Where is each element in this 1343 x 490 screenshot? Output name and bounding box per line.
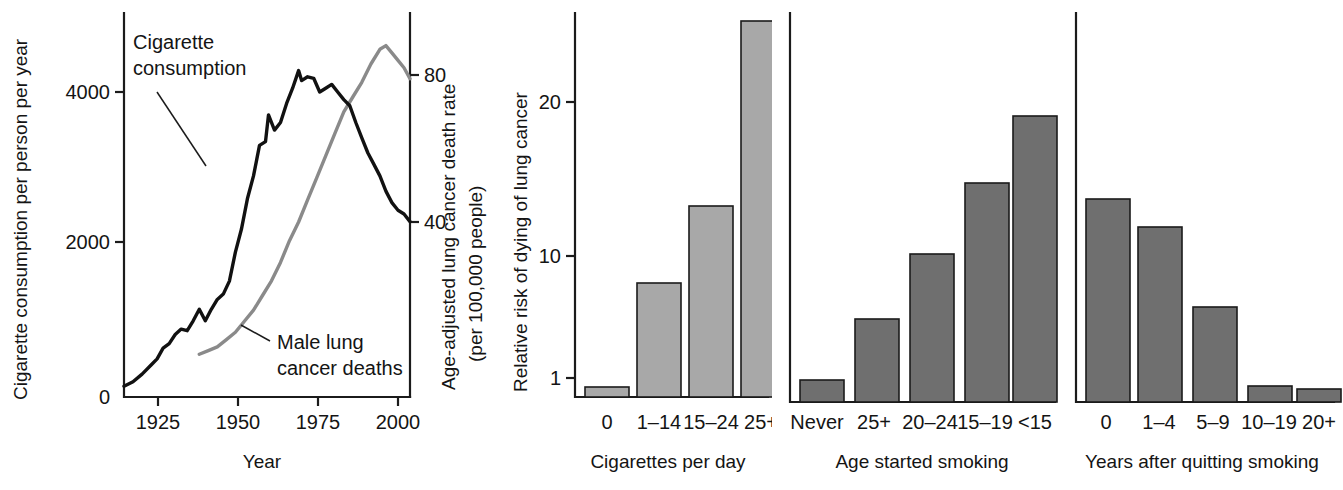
bars-y-axis-title: Relative risk of dying of lung cancer (510, 91, 531, 392)
annotation-male-lung-cancer-line1: Male lung (277, 331, 364, 353)
bar-cigarettes-0 (585, 387, 629, 397)
timeline-right-axis-title-line1: Age-adjusted lung cancer death rate (438, 84, 459, 390)
age-xticklabel-never: Never (790, 411, 844, 433)
panel-years-after-quitting: 0 1–4 5–9 10–19 20+ Years after quitting… (1062, 0, 1343, 490)
series-male-lung-cancer-deaths (199, 46, 410, 355)
annotation-cigarette-consumption-line2: consumption (133, 57, 246, 79)
cigarettes-xticklabel-1-14: 1–14 (637, 411, 682, 433)
age-xticklabel-20-24: 20–24 (902, 411, 958, 433)
age-xticklabel-15-19: 15–19 (957, 411, 1013, 433)
timeline-xticklabel-1925: 1925 (136, 411, 181, 433)
annotation-leader-deaths (241, 325, 270, 341)
cigarettes-x-axis-title: Cigarettes per day (590, 451, 746, 472)
timeline-xticklabel-1950: 1950 (216, 411, 261, 433)
cigarettes-xticklabel-15-24: 15–24 (683, 411, 739, 433)
bar-cigarettes-15-24 (689, 206, 733, 397)
years-quitting-svg: 0 1–4 5–9 10–19 20+ Years after quitting… (1062, 0, 1343, 490)
bar-age-15-19 (965, 183, 1009, 402)
age-x-axis-title: Age started smoking (835, 451, 1008, 472)
quit-xticklabel-10-19: 10–19 (1241, 411, 1297, 433)
age-started-svg: Never 25+ 20–24 15–19 <15 Age started sm… (772, 0, 1062, 490)
timeline-right-axis-title-line2: (per 100,000 people) (465, 186, 486, 362)
timeline-x-axis-title: Year (243, 451, 282, 472)
timeline-yticklabel-right-80: 80 (424, 64, 446, 86)
quit-xticklabel-5-9: 5–9 (1196, 411, 1229, 433)
timeline-xticklabel-1975: 1975 (296, 411, 341, 433)
timeline-yticklabel-4000: 4000 (66, 81, 111, 103)
timeline-yticklabel-right-40: 40 (424, 211, 446, 233)
quit-xticklabel-0: 0 (1100, 411, 1111, 433)
cigarettes-xticklabel-0: 0 (601, 411, 612, 433)
annotation-leader-consumption (157, 92, 206, 166)
panel-cigarettes-per-day: Relative risk of dying of lung cancer 20… (500, 0, 772, 490)
bar-cigarettes-1-14 (637, 283, 681, 397)
age-xticklabel-under15: <15 (1018, 411, 1052, 433)
bar-quit-20plus (1297, 389, 1341, 402)
figure-smoking-lung-cancer: Cigarette consumption per person per yea… (0, 0, 1343, 490)
bar-quit-1-4 (1138, 227, 1182, 402)
quit-xticklabel-20plus: 20+ (1302, 411, 1336, 433)
timeline-xticklabel-2000: 2000 (376, 411, 421, 433)
cigarettes-xticklabel-25plus: 25+ (744, 411, 772, 433)
age-xticklabel-25plus: 25+ (857, 411, 891, 433)
bar-cigarettes-25plus (741, 21, 772, 397)
panel-timeline: Cigarette consumption per person per yea… (0, 0, 500, 490)
timeline-svg: Cigarette consumption per person per yea… (0, 0, 500, 490)
annotation-male-lung-cancer-line2: cancer deaths (277, 357, 403, 379)
cigarettes-yticklabel-20: 20 (539, 91, 561, 113)
quit-xticklabel-1-4: 1–4 (1142, 411, 1175, 433)
bar-quit-0 (1086, 199, 1130, 402)
bar-quit-10-19 (1248, 386, 1292, 402)
timeline-yticklabel-2000: 2000 (66, 231, 111, 253)
annotation-cigarette-consumption-line1: Cigarette (133, 31, 214, 53)
panel-age-started-smoking: Never 25+ 20–24 15–19 <15 Age started sm… (772, 0, 1062, 490)
timeline-yticklabel-0: 0 (99, 386, 110, 408)
quit-x-axis-title: Years after quitting smoking (1085, 451, 1319, 472)
cigarettes-per-day-svg: Relative risk of dying of lung cancer 20… (500, 0, 772, 490)
bar-age-20-24 (910, 254, 954, 402)
cigarettes-yticklabel-1: 1 (550, 367, 561, 389)
bar-quit-5-9 (1193, 307, 1237, 402)
cigarettes-yticklabel-10: 10 (539, 245, 561, 267)
bar-age-under15 (1013, 116, 1057, 402)
timeline-left-axis-title: Cigarette consumption per person per yea… (10, 38, 31, 400)
bar-age-never (800, 380, 844, 402)
bar-age-25plus (855, 319, 899, 402)
